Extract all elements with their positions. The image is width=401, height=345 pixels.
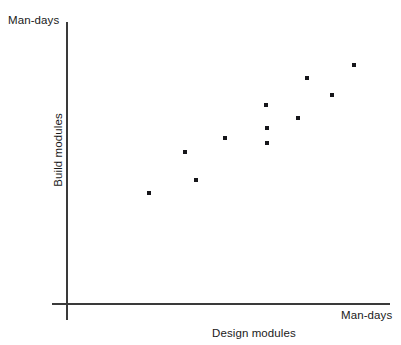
- scatter-chart: Man-days Man-days Design modules Build m…: [0, 0, 401, 345]
- data-point: [223, 136, 227, 140]
- data-point: [265, 141, 269, 145]
- y-axis-title: Build modules: [52, 113, 64, 187]
- data-point: [296, 116, 300, 120]
- data-point: [352, 63, 356, 67]
- data-point: [147, 191, 151, 195]
- data-point: [183, 150, 187, 154]
- data-point: [264, 103, 268, 107]
- x-axis-units-label: Man-days: [341, 309, 392, 321]
- data-point: [194, 178, 198, 182]
- data-point: [305, 76, 309, 80]
- data-point: [265, 126, 269, 130]
- y-axis-units-label: Man-days: [8, 14, 59, 26]
- x-axis-title: Design modules: [212, 327, 296, 339]
- data-point: [330, 93, 334, 97]
